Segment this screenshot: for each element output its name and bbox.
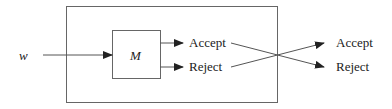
diagram-canvas: w M Accept Reject Accept Reject	[0, 0, 392, 109]
inner-accept-label: Accept	[189, 35, 226, 50]
machine-label: M	[129, 48, 142, 63]
inner-reject-label: Reject	[189, 59, 223, 74]
outer-reject-label: Reject	[336, 59, 370, 74]
input-label: w	[19, 48, 28, 63]
outer-accept-label: Accept	[336, 35, 373, 50]
